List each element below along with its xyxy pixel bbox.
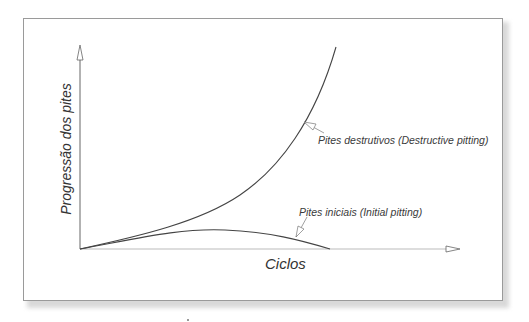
x-axis — [80, 246, 460, 252]
leader-arrowhead-icon — [296, 226, 304, 237]
y-axis-label: Progressão dos pites — [58, 83, 74, 215]
x-axis-label: Ciclos — [265, 255, 306, 272]
leader-arrow-initial — [296, 217, 307, 237]
annotation-initial-pitting: Pites iniciais (Initial pitting) — [299, 206, 422, 218]
curve-initial-pitting — [80, 230, 330, 249]
pitting-progression-diagram — [0, 0, 529, 322]
stray-mark — [187, 319, 189, 321]
y-axis — [77, 45, 83, 249]
x-axis-arrowhead-icon — [446, 246, 460, 252]
curve-destructive-pitting — [80, 47, 336, 249]
leader-arrowhead-icon — [304, 122, 316, 130]
y-axis-arrowhead-icon — [77, 45, 83, 60]
leader-arrow-destructive — [304, 122, 324, 133]
annotation-destructive-pitting: Pites destrutivos (Destructive pitting) — [318, 134, 488, 146]
